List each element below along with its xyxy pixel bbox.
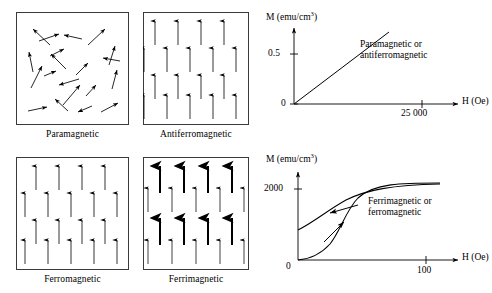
chart1-x-axis-symbol: H — [462, 96, 469, 106]
chart1-x-axis-label: H (Oe) — [462, 96, 489, 107]
chart2-xtick-100: 100 — [417, 265, 431, 275]
chart2-plot-area — [262, 150, 488, 290]
panel-ferrimagnetic: Ferrimagnetic — [143, 157, 256, 290]
panel-caption-ferromagnetic: Ferromagnetic — [16, 274, 129, 284]
chart1-ytick-0-5: 0.5 — [268, 48, 280, 58]
chart2-ytick-2000: 2000 — [264, 183, 283, 193]
chart-paramagnetic-curve: M (emu/cm3) 0.5 0 25 000 H (Oe) — [262, 8, 488, 136]
chart2-annotation-line2: ferromagnetic — [368, 207, 432, 218]
chart1-annotation-line1: Paramagnetic or — [360, 39, 428, 50]
panel-caption-ferrimagnetic: Ferrimagnetic — [143, 274, 249, 284]
chart1-xtick-25000: 25 000 — [401, 108, 427, 118]
chart1-plot-area — [262, 8, 488, 136]
ferromagnetic-spin-diagram — [16, 157, 129, 270]
panel-paramagnetic: Paramagnetic — [16, 12, 129, 145]
chart2-x-axis-unit: (Oe) — [469, 252, 489, 262]
panel-caption-paramagnetic: Paramagnetic — [16, 129, 129, 139]
ferrimagnetic-spin-diagram — [143, 157, 249, 270]
chart2-x-axis-label: H (Oe) — [462, 252, 489, 263]
chart2-ytick-0: 0 — [286, 261, 291, 271]
chart1-annotation-line2: antiferromagnetic — [360, 50, 428, 61]
antiferromagnetic-spin-diagram — [143, 12, 249, 125]
paramagnetic-spin-diagram — [16, 12, 129, 125]
panel-ferromagnetic: Ferromagnetic — [16, 157, 129, 290]
panel-antiferromagnetic: Antiferromagnetic — [143, 12, 256, 145]
chart2-x-axis-symbol: H — [462, 252, 469, 262]
magnetic-ordering-figure: Paramagnetic — [0, 0, 492, 293]
chart1-x-axis-unit: (Oe) — [469, 96, 489, 106]
chart1-annotation: Paramagnetic or antiferromagnetic — [360, 39, 428, 61]
panel-caption-antiferromagnetic: Antiferromagnetic — [143, 129, 249, 139]
chart2-annotation-line1: Ferrimagnetic or — [368, 196, 432, 207]
chart2-annotation: Ferrimagnetic or ferromagnetic — [368, 196, 432, 218]
chart-ferromagnetic-curve: M (emu/cm3) — [262, 150, 488, 290]
chart1-ytick-0: 0 — [281, 98, 286, 108]
